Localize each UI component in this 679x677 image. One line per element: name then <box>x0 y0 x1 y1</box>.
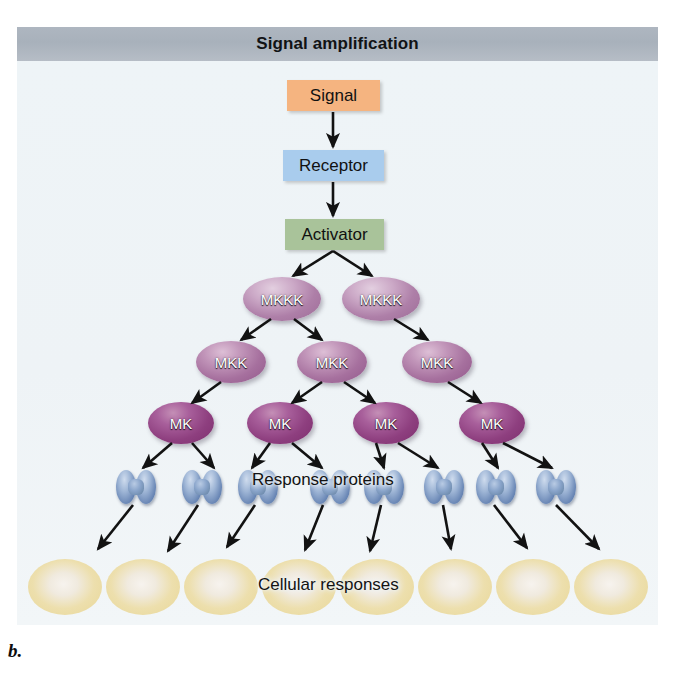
protein-waist <box>194 479 210 495</box>
signal-amplification-figure: Signal amplification Signal Receptor Act… <box>0 0 679 677</box>
activator-box-label: Activator <box>301 225 367 245</box>
cellular-response-blob <box>28 559 102 615</box>
mkkk-oval: MKKK <box>342 277 420 321</box>
mkkk-oval-label: MKKK <box>360 291 403 308</box>
response-protein <box>536 470 576 504</box>
mk-oval-label: MK <box>481 415 504 432</box>
page-title: Signal amplification <box>256 34 419 54</box>
mkk-oval: MKK <box>402 341 472 383</box>
cellular-responses-label: Cellular responses <box>258 575 399 595</box>
activator-box: Activator <box>285 219 384 250</box>
mkk-oval: MKK <box>297 341 367 383</box>
response-protein <box>424 470 464 504</box>
figure-caption: b. <box>8 640 22 662</box>
mk-oval: MK <box>148 402 214 444</box>
mk-oval: MK <box>459 402 525 444</box>
mk-oval: MK <box>247 402 313 444</box>
receptor-box: Receptor <box>283 150 384 181</box>
figure-title-bar: Signal amplification <box>17 27 658 61</box>
protein-waist <box>488 479 504 495</box>
mkk-oval-label: MKK <box>215 354 248 371</box>
response-proteins-label: Response proteins <box>252 470 394 490</box>
response-protein <box>476 470 516 504</box>
mk-oval-label: MK <box>269 415 292 432</box>
response-protein <box>116 470 156 504</box>
cellular-response-blob <box>184 559 258 615</box>
protein-waist <box>436 479 452 495</box>
cellular-response-blob <box>418 559 492 615</box>
mkk-oval-label: MKK <box>316 354 349 371</box>
protein-waist <box>128 479 144 495</box>
signal-box-label: Signal <box>310 86 357 106</box>
cellular-response-blob <box>574 559 648 615</box>
cellular-response-blob <box>496 559 570 615</box>
receptor-box-label: Receptor <box>299 156 368 176</box>
mk-oval-label: MK <box>375 415 398 432</box>
mkk-oval-label: MKK <box>421 354 454 371</box>
mkkk-oval: MKKK <box>243 277 321 321</box>
mk-oval: MK <box>353 402 419 444</box>
cellular-response-blob <box>106 559 180 615</box>
protein-waist <box>548 479 564 495</box>
signal-box: Signal <box>287 80 380 111</box>
mkk-oval: MKK <box>196 341 266 383</box>
mk-oval-label: MK <box>170 415 193 432</box>
response-protein <box>182 470 222 504</box>
mkkk-oval-label: MKKK <box>261 291 304 308</box>
